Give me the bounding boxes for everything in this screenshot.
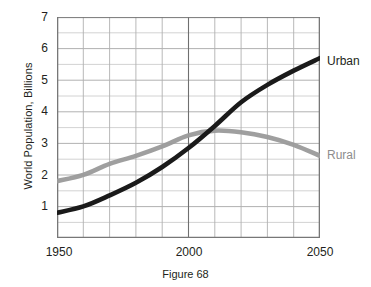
figure-caption: Figure 68 (0, 268, 371, 280)
x-tick-label-2050: 2050 (307, 245, 334, 259)
y-tick-label-4: 4 (8, 104, 48, 118)
y-tick-label-5: 5 (8, 73, 48, 87)
y-tick-label-7: 7 (8, 10, 48, 24)
x-tick-label-2000: 2000 (176, 245, 203, 259)
series-label-rural: Rural (327, 148, 356, 162)
y-tick-label-2: 2 (8, 168, 48, 182)
series-label-urban: Urban (327, 54, 360, 68)
y-tick-label-3: 3 (8, 136, 48, 150)
y-tick-label-1: 1 (8, 199, 48, 213)
y-axis-title: World Population, Billions (22, 26, 34, 226)
figure-container: World Population, Billions 7 6 5 4 3 2 1… (0, 0, 371, 287)
x-tick-label-1950: 1950 (46, 245, 73, 259)
plot-area (57, 17, 320, 238)
y-tick-label-6: 6 (8, 41, 48, 55)
chart-svg (57, 17, 320, 238)
